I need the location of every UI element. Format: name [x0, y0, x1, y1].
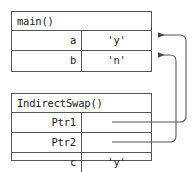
- variable-name-b: b: [12, 51, 82, 71]
- frame-title-indirect-swap: IndirectSwap(): [12, 94, 151, 113]
- variable-value-ptr2: [82, 133, 151, 152]
- variable-value-ptr1: [82, 113, 151, 132]
- variable-name-a: a: [12, 31, 82, 50]
- frame-title-main: main(): [12, 12, 151, 31]
- variable-value-a: 'y': [82, 31, 151, 50]
- variable-name-ptr1: Ptr1: [12, 113, 82, 132]
- variable-value-b: 'n': [82, 51, 151, 71]
- table-row: c 'y': [12, 153, 151, 172]
- stack-frame-indirect-swap: IndirectSwap() Ptr1 Ptr2 c 'y': [11, 93, 152, 161]
- table-row: a 'y': [12, 31, 151, 51]
- variable-name-c: c: [12, 153, 82, 172]
- table-row: Ptr1: [12, 113, 151, 133]
- table-row: b 'n': [12, 51, 151, 71]
- table-row: Ptr2: [12, 133, 151, 153]
- stack-frame-main: main() a 'y' b 'n': [11, 11, 152, 72]
- diagram-canvas: main() a 'y' b 'n' IndirectSwap() Ptr1 P…: [0, 0, 194, 172]
- variable-value-c: 'y': [82, 153, 151, 172]
- variable-name-ptr2: Ptr2: [12, 133, 82, 152]
